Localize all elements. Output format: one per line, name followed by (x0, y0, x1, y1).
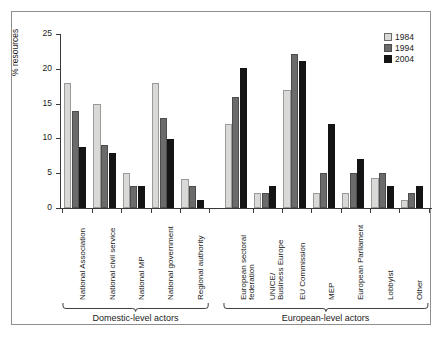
legend-item-1994: 1994 (384, 43, 414, 53)
bar-1994-2 (130, 186, 137, 208)
legend: 198419942004 (384, 32, 414, 65)
bar-1984-3 (152, 83, 159, 208)
figure: % resources 0510152025 National Associat… (0, 0, 443, 338)
x-tick (429, 209, 430, 213)
category-label-1: National civil service (109, 228, 117, 300)
category-label-line: Regional authority (197, 236, 205, 300)
bar-2004-7 (299, 61, 306, 208)
category-label-0: National Association (79, 228, 87, 300)
category-label-line: National Association (79, 228, 87, 300)
bar-2004-8 (328, 124, 335, 208)
y-tick-label: 15 (12, 99, 52, 108)
category-label-line: Business Europe (278, 240, 286, 300)
category-label-line: National government (167, 226, 175, 300)
bar-2004-5 (240, 68, 247, 208)
bar-1984-7 (283, 90, 290, 208)
x-tick (282, 209, 283, 213)
bar-2004-4 (197, 200, 204, 208)
bar-2004-9 (357, 159, 364, 208)
bar-2004-1 (109, 153, 116, 208)
chart-frame: % resources 0510152025 National Associat… (11, 11, 431, 325)
category-label-3: National government (167, 226, 175, 300)
category-label-line: EU Commission (299, 243, 307, 300)
x-tick (62, 209, 63, 213)
bar-2004-6 (269, 186, 276, 208)
y-tick-label: 0 (12, 203, 52, 212)
category-label-4: Regional authority (197, 236, 205, 300)
x-tick (121, 209, 122, 213)
bar-1984-8 (313, 193, 320, 208)
category-label-9: European Parliament (357, 225, 365, 300)
bar-1994-6 (262, 193, 269, 208)
group-label-0: Domestic-level actors (62, 313, 209, 323)
legend-swatch-icon (384, 55, 392, 63)
bar-1984-11 (401, 200, 408, 208)
bar-1984-1 (93, 104, 100, 208)
x-axis-line (60, 208, 432, 209)
category-label-line: Other (416, 280, 424, 300)
x-tick (92, 209, 93, 213)
category-label-line: Lobbyist (387, 270, 395, 300)
category-label-line: European Parliament (357, 225, 365, 300)
y-tick-label: 5 (12, 168, 52, 177)
x-tick (253, 209, 254, 213)
bar-1984-0 (64, 83, 71, 208)
bar-1984-10 (371, 178, 378, 208)
group-bracket-1 (223, 303, 429, 312)
legend-swatch-icon (384, 44, 392, 52)
bar-1984-2 (123, 173, 130, 208)
legend-label: 1984 (395, 32, 414, 42)
group-label-1: European-level actors (223, 313, 429, 323)
bar-1984-9 (342, 193, 349, 208)
legend-label: 1994 (395, 43, 414, 53)
bar-1994-8 (320, 173, 327, 208)
y-tick-label: 20 (12, 64, 52, 73)
x-tick (180, 209, 181, 213)
category-label-5: European sectoralfederation (240, 235, 257, 300)
bar-2004-10 (387, 186, 394, 208)
bar-2004-3 (167, 139, 174, 208)
bar-1994-4 (189, 186, 196, 208)
bar-1984-6 (254, 193, 261, 208)
x-tick (311, 209, 312, 213)
category-label-10: Lobbyist (387, 270, 395, 300)
x-tick (341, 209, 342, 213)
x-tick (399, 209, 400, 213)
y-tick-label: 10 (12, 133, 52, 142)
y-tick-label: 25 (12, 29, 52, 38)
category-label-11: Other (416, 280, 424, 300)
y-tick (56, 208, 60, 209)
bar-2004-2 (138, 186, 145, 208)
bar-1994-11 (408, 193, 415, 208)
legend-label: 2004 (395, 54, 414, 64)
category-label-8: MEP (328, 283, 336, 300)
x-tick (370, 209, 371, 213)
bar-1994-9 (350, 173, 357, 208)
bar-1984-4 (181, 179, 188, 208)
category-label-2: National MP (138, 256, 146, 300)
legend-item-2004: 2004 (384, 54, 414, 64)
bar-1994-7 (291, 54, 298, 209)
bar-1994-0 (72, 111, 79, 208)
category-label-7: EU Commission (299, 243, 307, 300)
bar-1994-1 (101, 145, 108, 208)
category-label-line: National MP (138, 256, 146, 300)
bar-1984-5 (225, 124, 232, 208)
bars-layer (60, 34, 432, 208)
x-tick (151, 209, 152, 213)
group-bracket-0 (62, 303, 209, 312)
bar-1994-3 (160, 118, 167, 208)
category-label-line: federation (248, 235, 256, 300)
bar-1994-5 (232, 97, 239, 208)
bar-2004-11 (416, 186, 423, 208)
category-label-line: National civil service (109, 228, 117, 300)
legend-swatch-icon (384, 33, 392, 41)
category-label-6: UNICE/Business Europe (269, 240, 286, 300)
bar-1994-10 (379, 173, 386, 208)
legend-item-1984: 1984 (384, 32, 414, 42)
x-tick (209, 209, 210, 213)
category-label-line: MEP (328, 283, 336, 300)
bar-2004-0 (79, 147, 86, 208)
